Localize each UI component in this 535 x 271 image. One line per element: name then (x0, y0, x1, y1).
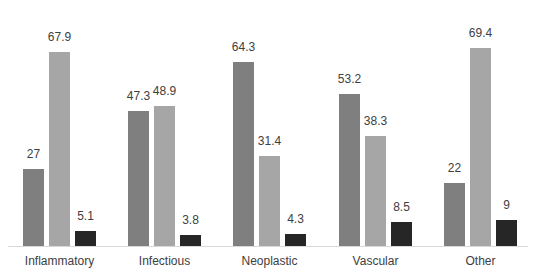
data-label: 4.3 (276, 212, 316, 226)
bar (444, 183, 465, 246)
data-label: 8.5 (382, 200, 422, 214)
category-label: Other (431, 254, 531, 268)
data-label: 48.9 (145, 84, 185, 98)
category-label: Vascular (326, 254, 426, 268)
bar (496, 220, 517, 246)
bar (391, 222, 412, 246)
data-label: 67.9 (40, 30, 80, 44)
data-label: 31.4 (250, 134, 290, 148)
bar (259, 156, 280, 246)
data-label: 69.4 (461, 26, 501, 40)
x-axis-line (8, 246, 528, 247)
category-label: Neoplastic (220, 254, 320, 268)
data-label: 38.3 (356, 114, 396, 128)
bar (233, 62, 254, 246)
data-label: 27 (14, 147, 54, 161)
category-label: Inflammatory (10, 254, 110, 268)
bar (285, 234, 306, 246)
data-label: 53.2 (330, 72, 370, 86)
category-label: Infectious (115, 254, 215, 268)
bar (23, 169, 44, 246)
data-label: 64.3 (224, 40, 264, 54)
data-label: 9 (487, 198, 527, 212)
grouped-bar-chart: 2767.95.1Inflammatory47.348.93.8Infectio… (0, 0, 535, 271)
bar (75, 231, 96, 246)
bar (128, 111, 149, 246)
bar (180, 235, 201, 246)
bar (365, 136, 386, 246)
data-label: 22 (435, 161, 475, 175)
data-label: 5.1 (66, 209, 106, 223)
bar (470, 48, 491, 246)
data-label: 3.8 (171, 213, 211, 227)
